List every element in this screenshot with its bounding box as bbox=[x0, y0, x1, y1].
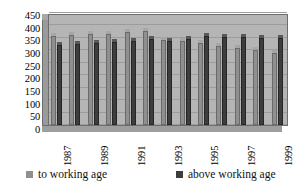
y-axis-tick-label: 250 bbox=[25, 62, 40, 72]
bar bbox=[167, 38, 172, 125]
bar bbox=[278, 35, 283, 125]
bar-front-face bbox=[186, 39, 191, 125]
bar-front-face bbox=[216, 46, 221, 125]
bar-front-face bbox=[222, 37, 227, 125]
bar bbox=[51, 33, 56, 125]
bar-front-face bbox=[75, 44, 80, 125]
bar bbox=[143, 28, 148, 125]
bar-front-face bbox=[259, 38, 264, 125]
chart-legend: to working age above working age bbox=[0, 168, 296, 189]
x-axis-tick-label: 1991 bbox=[136, 146, 147, 166]
bar-front-face bbox=[69, 35, 74, 125]
bar-front-face bbox=[235, 48, 240, 126]
bar bbox=[161, 37, 166, 125]
bar bbox=[57, 42, 62, 125]
y-axis-tick-label: 450 bbox=[25, 11, 40, 21]
y-axis-tick-label: 400 bbox=[25, 24, 40, 34]
y-axis-tick-label: 50 bbox=[30, 112, 40, 122]
bar bbox=[272, 50, 277, 125]
x-axis: 1987198919911993199519971999 bbox=[42, 133, 288, 167]
bar bbox=[69, 32, 74, 125]
y-axis-tick-label: 350 bbox=[25, 36, 40, 46]
bar-front-face bbox=[57, 45, 62, 125]
legend-label: to working age bbox=[38, 168, 107, 180]
bar-group bbox=[196, 20, 214, 125]
bar bbox=[75, 41, 80, 125]
bar-groups bbox=[49, 20, 288, 125]
legend-swatch-icon bbox=[26, 171, 33, 178]
bar bbox=[88, 31, 93, 125]
bar-group bbox=[123, 20, 141, 125]
bar-front-face bbox=[161, 40, 166, 125]
bar bbox=[253, 47, 258, 125]
bar-front-face bbox=[253, 50, 258, 125]
bar-front-face bbox=[241, 37, 246, 125]
bar-front-face bbox=[167, 41, 172, 125]
bar bbox=[125, 29, 130, 125]
bar-group bbox=[270, 20, 288, 125]
bar-group bbox=[104, 20, 122, 125]
bar-front-face bbox=[131, 41, 136, 125]
x-axis-tick-label: 1995 bbox=[209, 146, 220, 166]
bar-front-face bbox=[112, 42, 117, 125]
y-axis: 450400350300250200150100500 bbox=[0, 11, 42, 137]
plot-floor bbox=[42, 125, 282, 132]
x-axis-tick-label: 1997 bbox=[246, 146, 257, 166]
legend-item-above-working-age: above working age bbox=[176, 168, 276, 180]
bar bbox=[112, 39, 117, 125]
bar bbox=[216, 43, 221, 125]
bar-front-face bbox=[125, 32, 130, 125]
bar-front-face bbox=[272, 53, 277, 125]
bar-chart: 450400350300250200150100500 198719891991… bbox=[0, 0, 296, 189]
bar-group bbox=[251, 20, 269, 125]
legend-swatch-icon bbox=[176, 171, 183, 178]
x-axis-tick-label: 1999 bbox=[283, 146, 294, 166]
bar-front-face bbox=[106, 34, 111, 126]
bar-group bbox=[178, 20, 196, 125]
plot-area bbox=[42, 14, 288, 132]
bar bbox=[94, 40, 99, 125]
bar-front-face bbox=[143, 31, 148, 125]
bar-front-face bbox=[204, 36, 209, 125]
bar bbox=[131, 38, 136, 125]
x-axis-tick-label: 1989 bbox=[99, 146, 110, 166]
bar-front-face bbox=[88, 34, 93, 125]
bar bbox=[204, 33, 209, 125]
bar-group bbox=[49, 20, 67, 125]
bar-group bbox=[159, 20, 177, 125]
bar bbox=[198, 40, 203, 125]
bar bbox=[241, 34, 246, 125]
gridline bbox=[49, 12, 287, 13]
bar-group bbox=[233, 20, 251, 125]
y-axis-tick-label: 200 bbox=[25, 74, 40, 84]
bar-front-face bbox=[149, 39, 154, 125]
bar-front-face bbox=[94, 43, 99, 125]
bar-front-face bbox=[180, 41, 185, 125]
bar-front-face bbox=[51, 36, 56, 125]
bar bbox=[259, 35, 264, 125]
y-axis-tick-label: 150 bbox=[25, 87, 40, 97]
bar bbox=[222, 34, 227, 125]
bar bbox=[106, 31, 111, 126]
bar-group bbox=[141, 20, 159, 125]
bar-group bbox=[67, 20, 85, 125]
bar bbox=[149, 36, 154, 125]
x-axis-tick-label: 1987 bbox=[62, 146, 73, 166]
bar-front-face bbox=[198, 43, 203, 125]
bar-group bbox=[86, 20, 104, 125]
bar-group bbox=[214, 20, 232, 125]
legend-label: above working age bbox=[188, 168, 276, 180]
x-axis-tick-label: 1993 bbox=[173, 146, 184, 166]
bar bbox=[180, 38, 185, 125]
bar bbox=[235, 45, 240, 126]
y-axis-tick-label: 300 bbox=[25, 49, 40, 59]
y-axis-tick-label: 100 bbox=[25, 100, 40, 110]
bar-front-face bbox=[278, 38, 283, 125]
bar bbox=[186, 36, 191, 125]
y-axis-tick-label: 0 bbox=[35, 125, 40, 135]
legend-item-to-working-age: to working age bbox=[26, 168, 107, 180]
